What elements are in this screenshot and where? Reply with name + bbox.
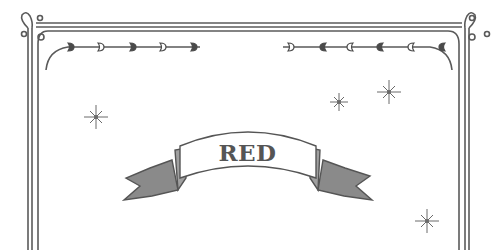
ornamental-frame xyxy=(0,0,495,250)
banner-label: RED xyxy=(0,139,495,166)
